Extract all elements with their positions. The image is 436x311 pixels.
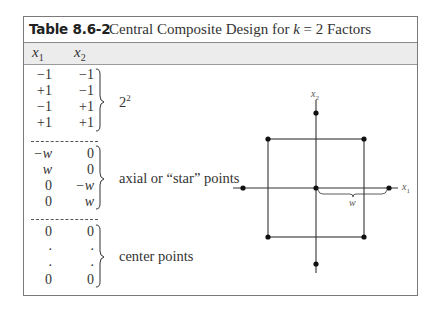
factorial-point: [265, 136, 270, 141]
x1-axis-label: x1: [402, 181, 410, 195]
brace-icon: [96, 146, 104, 209]
distance-brace-icon: [318, 190, 387, 197]
distance-w-label: w: [349, 197, 356, 208]
center-point: [313, 185, 318, 190]
axial-point: [313, 261, 318, 266]
axial-point: [313, 110, 318, 115]
axial-point: [240, 185, 245, 190]
factorial-point: [361, 234, 366, 239]
factorial-point: [361, 136, 366, 141]
figure-graphics: [0, 0, 436, 311]
brace-icons: [96, 69, 104, 287]
axis-sub: 1: [406, 187, 410, 195]
axis-sub: 2: [315, 94, 319, 102]
axial-point: [386, 185, 391, 190]
factorial-point: [265, 234, 270, 239]
x2-axis-label: x2: [311, 88, 319, 102]
brace-icon: [96, 69, 104, 131]
brace-icon: [96, 225, 104, 287]
